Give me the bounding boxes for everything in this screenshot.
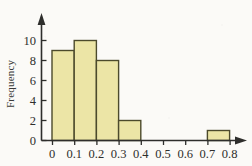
x-tick-label-0-7: 0.7 — [200, 147, 216, 161]
x-tick-label-0-5: 0.5 — [155, 147, 171, 161]
histogram-chart: 0 2 4 6 8 10 Frequency 0 0.1 0.2 0.3 0.4… — [0, 0, 252, 166]
histogram-bar — [52, 51, 74, 141]
x-tick-label-0-2: 0.2 — [89, 147, 105, 161]
histogram-bar — [74, 41, 96, 141]
x-tick-label-0-3: 0.3 — [111, 147, 127, 161]
x-tick-label-0-6: 0.6 — [177, 147, 193, 161]
y-axis-title: Frequency — [4, 59, 16, 108]
y-tick-label-0: 0 — [30, 134, 36, 148]
y-tick-label-2: 2 — [30, 114, 36, 128]
histogram-bar — [119, 121, 141, 141]
y-tick-label-4: 4 — [30, 94, 37, 108]
histogram-bar — [96, 61, 118, 141]
histogram-bar — [207, 131, 229, 141]
x-tick-label-0-4: 0.4 — [133, 147, 149, 161]
y-tick-label-6: 6 — [30, 74, 36, 88]
y-tick-label-8: 8 — [30, 54, 36, 68]
x-tick-label-0-1: 0.1 — [66, 147, 82, 161]
x-tick-label-0-8: 0.8 — [222, 147, 238, 161]
x-tick-label-0: 0 — [49, 147, 55, 161]
y-tick-label-10: 10 — [24, 34, 37, 48]
